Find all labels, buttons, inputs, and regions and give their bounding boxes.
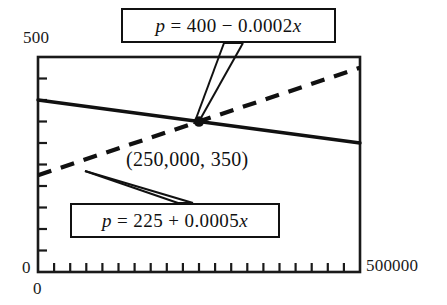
supply-eq-lhs: p [102,210,112,231]
y-axis-min-label: 0 [22,258,31,278]
supply-eq-equals: = [117,210,128,231]
demand-equation-callout: p = 400 − 0.0002x [121,8,336,43]
equilibrium-point-label: (250,000, 350) [126,148,249,171]
supply-eq-intercept: 225 [133,210,163,231]
supply-equation-callout: p = 225 + 0.0005x [70,203,280,238]
demand-eq-operator: − [222,15,233,36]
demand-eq-variable: x [293,15,302,36]
demand-callout-leader-lines [194,43,243,125]
demand-equation-text: p = 400 − 0.0002x [156,15,302,37]
supply-eq-variable: x [239,210,248,231]
demand-eq-lhs: p [156,15,166,36]
x-axis-min-label: 0 [33,279,42,299]
x-axis-ticks [54,263,344,272]
supply-equation-text: p = 225 + 0.0005x [102,210,248,232]
demand-eq-equals: = [171,15,182,36]
supply-callout-leader-lines [85,171,193,203]
supply-eq-operator: + [168,210,179,231]
demand-eq-intercept: 400 [187,15,217,36]
x-axis-max-label: 500000 [366,256,418,276]
supply-demand-chart: 500 0 0 500000 (250,000, 350) p = 400 − … [0,0,447,305]
y-axis-ticks [38,79,47,251]
supply-eq-slope: 0.0005 [184,210,239,231]
y-axis-max-label: 500 [23,28,49,48]
demand-eq-slope: 0.0002 [238,15,293,36]
